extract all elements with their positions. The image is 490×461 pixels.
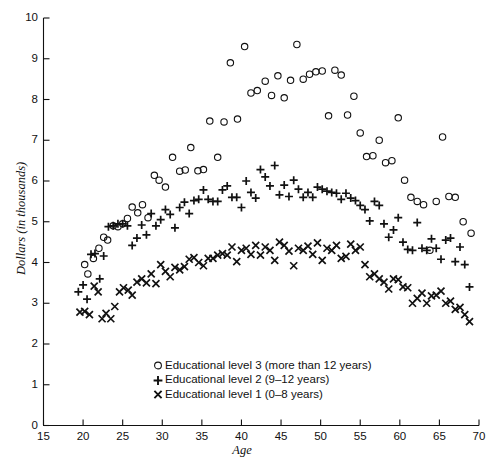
data-point-plus: [157, 216, 165, 224]
data-point-x: [404, 284, 411, 291]
x-tick-label: 20: [67, 431, 99, 443]
y-axis-title: Dollars (in thousands): [14, 162, 29, 275]
data-point-circle: [227, 60, 233, 66]
data-point-x: [304, 243, 311, 250]
data-point-circle: [319, 68, 325, 74]
x-tick-label: 50: [305, 431, 337, 443]
data-point-circle: [357, 130, 363, 136]
y-tick-label: 10: [14, 12, 38, 24]
data-point-plus: [171, 224, 179, 232]
y-tick-label: 2: [14, 338, 38, 350]
legend-marker-circle-icon: [152, 358, 165, 372]
data-point-x: [95, 288, 102, 295]
data-point-circle: [300, 76, 306, 82]
data-point-circle: [389, 157, 395, 163]
data-point-plus: [413, 219, 421, 227]
data-point-plus: [252, 194, 260, 202]
data-point-circle: [268, 92, 274, 98]
data-point-plus: [461, 261, 469, 269]
legend-item[interactable]: Educational level 2 (9–12 years): [152, 373, 371, 388]
data-point-plus: [74, 288, 82, 296]
data-point-circle: [262, 78, 268, 84]
legend-item[interactable]: Educational level 1 (0–8 years): [152, 387, 371, 402]
x-tick-label: 40: [225, 431, 257, 443]
data-point-x: [418, 290, 425, 297]
data-point-plus: [290, 176, 298, 184]
data-point-plus: [214, 197, 222, 205]
data-point-x: [361, 261, 368, 268]
data-point-x: [271, 257, 278, 264]
legend-item-label: Educational level 3 (more than 12 years): [165, 360, 371, 372]
data-point-circle: [294, 41, 300, 47]
data-point-circle: [85, 271, 91, 277]
x-tick-label: 25: [107, 431, 139, 443]
data-point-plus: [256, 166, 264, 174]
data-point-plus: [275, 191, 283, 199]
data-point-plus: [361, 206, 369, 214]
x-axis-title: Age: [0, 443, 484, 458]
data-point-x: [385, 285, 392, 292]
data-point-plus: [394, 214, 402, 222]
data-point-plus: [465, 283, 473, 291]
data-point-plus: [342, 189, 350, 197]
y-tick-label: 3: [14, 297, 38, 309]
data-point-plus: [380, 220, 388, 228]
data-point-circle: [313, 69, 319, 75]
data-point-plus: [247, 188, 255, 196]
data-point-plus: [337, 195, 345, 203]
data-point-plus: [304, 188, 312, 196]
data-point-circle: [156, 177, 162, 183]
data-point-x: [395, 276, 402, 283]
data-point-x: [309, 251, 316, 258]
data-point-circle: [408, 194, 414, 200]
y-tick-label: 0: [14, 420, 38, 432]
data-point-plus: [138, 221, 146, 229]
data-point-x: [423, 300, 430, 307]
data-point-circle: [275, 73, 281, 79]
data-point-plus: [133, 234, 141, 242]
data-point-circle: [81, 261, 87, 267]
data-point-circle: [241, 43, 247, 49]
x-tick-label: 30: [146, 431, 178, 443]
x-tick-label: 70: [463, 431, 490, 443]
data-point-plus: [285, 192, 293, 200]
series-points-level-1: [76, 239, 473, 325]
data-point-circle: [351, 93, 357, 99]
data-point-x: [152, 280, 159, 287]
data-point-x: [252, 242, 259, 249]
y-tick-label: 8: [14, 94, 38, 106]
series-points-level-2: [74, 162, 473, 304]
data-point-circle: [124, 215, 130, 221]
data-point-circle: [468, 230, 474, 236]
data-point-circle: [395, 115, 401, 121]
data-point-circle: [215, 154, 221, 160]
data-point-plus: [389, 226, 397, 234]
legend-item[interactable]: Educational level 3 (more than 12 years): [152, 358, 371, 373]
data-point-x: [107, 315, 114, 322]
data-point-circle: [254, 87, 260, 93]
chart-legend: Educational level 3 (more than 12 years)…: [152, 358, 371, 402]
data-point-plus: [375, 201, 383, 209]
data-point-circle: [382, 159, 388, 165]
data-point-x: [314, 239, 321, 246]
data-point-circle: [96, 245, 102, 251]
data-point-plus: [142, 231, 150, 239]
data-point-plus: [399, 238, 407, 246]
legend-item-label: Educational level 2 (9–12 years): [165, 374, 329, 386]
data-point-plus: [294, 185, 302, 193]
data-point-circle: [452, 194, 458, 200]
data-point-circle: [420, 201, 426, 207]
y-tick-label: 1: [14, 379, 38, 391]
data-point-circle: [248, 90, 254, 96]
data-point-x: [461, 311, 468, 318]
data-point-plus: [176, 203, 184, 211]
data-point-x: [143, 279, 150, 286]
data-point-plus: [185, 210, 193, 218]
y-axis-ticks: [44, 18, 50, 426]
data-point-plus: [128, 241, 136, 249]
data-point-plus: [161, 206, 169, 214]
data-point-circle: [363, 153, 369, 159]
data-point-plus: [408, 246, 416, 254]
data-point-plus: [437, 255, 445, 263]
